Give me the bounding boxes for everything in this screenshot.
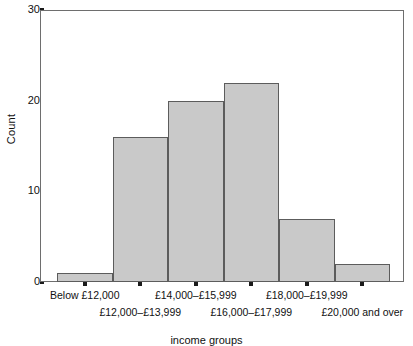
x-tick-label: £12,000–£13,999: [99, 306, 181, 318]
x-tick-label: £18,000–£19,999: [266, 289, 348, 301]
x-tick-label: £20,000 and over: [321, 306, 403, 318]
x-tick-label: £14,000–£15,999: [155, 289, 237, 301]
x-axis-tick-labels: Below £12,000£12,000–£13,999£14,000–£15,…: [0, 0, 413, 346]
histogram-chart: Count 0102030 Below £12,000£12,000–£13,9…: [0, 0, 413, 346]
x-axis-title: income groups: [0, 334, 413, 346]
x-tick-label: £16,000–£17,999: [210, 306, 292, 318]
x-tick-label: Below £12,000: [50, 289, 119, 301]
